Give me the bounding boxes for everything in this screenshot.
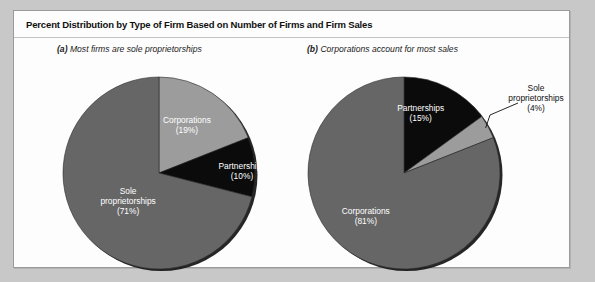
panel-b-caption-text: Corporations account for most sales bbox=[320, 44, 458, 54]
panel-a-tag: (a) bbox=[57, 44, 68, 54]
pie-chart-b: Partnerships(15%)Soleproprietorships(4%)… bbox=[294, 63, 584, 269]
pie-b-svg: Partnerships(15%)Soleproprietorships(4%)… bbox=[294, 63, 584, 269]
pie-label-sole-proprietorships: Soleproprietorships(4%) bbox=[508, 83, 563, 113]
leader-line-sole-proprietorships bbox=[486, 103, 518, 128]
title-divider bbox=[14, 37, 569, 38]
panel-a-caption-text: Most firms are sole proprietorships bbox=[70, 44, 202, 54]
panel-b-caption: (b) Corporations account for most sales bbox=[307, 44, 458, 54]
figure-card: Percent Distribution by Type of Firm Bas… bbox=[13, 10, 570, 268]
pie-chart-a: Corporations(19%)Partnerships(10%)Solepr… bbox=[49, 63, 279, 269]
pie-a-slices bbox=[63, 77, 258, 271]
pie-a-svg: Corporations(19%)Partnerships(10%)Solepr… bbox=[49, 63, 279, 269]
figure-root: Percent Distribution by Type of Firm Bas… bbox=[0, 0, 595, 282]
figure-title: Percent Distribution by Type of Firm Bas… bbox=[26, 19, 372, 30]
panel-b-tag: (b) bbox=[307, 44, 318, 54]
pie-b-leader-lines bbox=[486, 103, 518, 128]
panel-a-caption: (a) Most firms are sole proprietorships bbox=[57, 44, 202, 54]
